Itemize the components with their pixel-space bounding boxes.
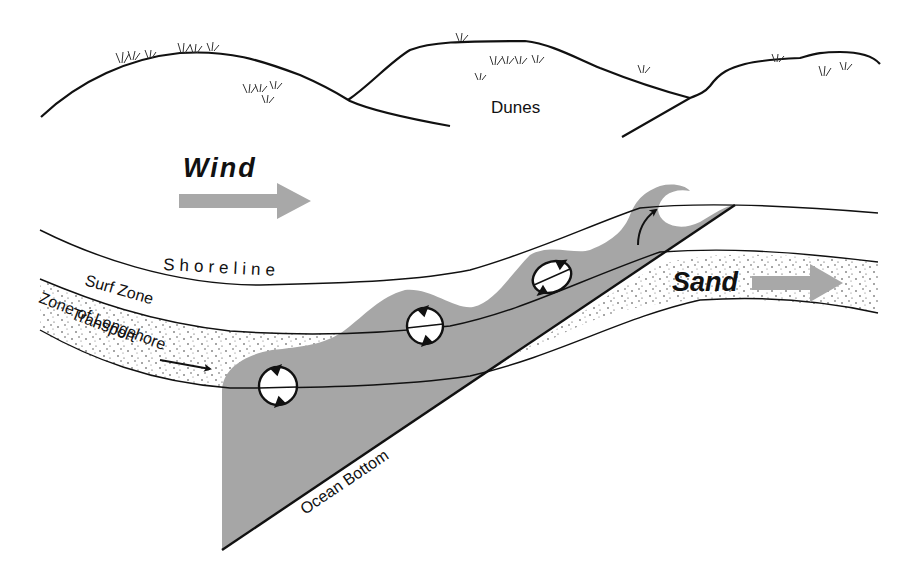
dunes-label: Dunes xyxy=(491,98,540,117)
dune-middle xyxy=(348,41,690,100)
wind-label: Wind xyxy=(183,153,257,183)
rotation-icon xyxy=(259,366,297,406)
wind-arrow-icon xyxy=(179,183,311,219)
breaking-wave-region xyxy=(222,185,735,550)
grass-icon xyxy=(116,33,852,103)
longshore-transport-diagram: Dunes Wind xyxy=(0,0,913,577)
dunes: Dunes xyxy=(41,33,880,137)
wind-group: Wind xyxy=(179,153,311,219)
shoreline-label: Shoreline xyxy=(163,255,281,280)
sand-label: Sand xyxy=(672,267,739,297)
